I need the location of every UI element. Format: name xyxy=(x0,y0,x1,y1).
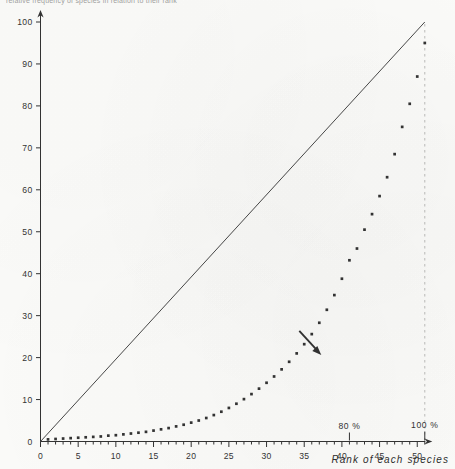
data-point xyxy=(243,398,246,401)
y-tick-label-30: 30 xyxy=(22,311,32,321)
x-tick-label-35: 35 xyxy=(299,451,309,461)
chart-plot-area: 1020304050607080901000051015202530354045… xyxy=(0,0,455,469)
data-point xyxy=(47,438,50,441)
y-tick-label-10: 10 xyxy=(22,395,32,405)
data-point xyxy=(160,428,163,431)
data-point xyxy=(92,436,95,439)
data-point xyxy=(77,436,80,439)
data-point xyxy=(137,431,140,434)
data-point xyxy=(386,176,389,179)
data-point xyxy=(182,423,185,426)
y-tick-label-0: 0 xyxy=(27,437,32,447)
figure-canvas: relative frequency of species in relatio… xyxy=(0,0,455,469)
data-point xyxy=(341,277,344,280)
y-tick-label-90: 90 xyxy=(22,59,32,69)
data-point xyxy=(295,352,298,355)
data-point xyxy=(258,387,261,390)
data-point xyxy=(250,393,253,396)
data-point-group xyxy=(47,42,426,441)
y-tick-label-70: 70 xyxy=(22,143,32,153)
data-point xyxy=(145,431,148,434)
x-axis-title: Rank of each species xyxy=(331,454,449,465)
data-point xyxy=(115,434,118,437)
data-point xyxy=(393,153,396,156)
data-point xyxy=(408,102,411,105)
data-point xyxy=(310,333,313,336)
pointer-arrow xyxy=(299,331,321,355)
data-point xyxy=(197,419,200,422)
diagonal-reference-line xyxy=(41,22,425,442)
y-tick-label-40: 40 xyxy=(22,269,32,279)
data-point xyxy=(356,247,359,250)
data-point xyxy=(99,435,102,438)
data-point xyxy=(280,368,283,371)
y-tick-label-100: 100 xyxy=(17,17,32,27)
data-point xyxy=(152,429,155,432)
data-point xyxy=(235,402,238,405)
data-point xyxy=(423,42,426,45)
data-point xyxy=(175,425,178,428)
x-tick-label-30: 30 xyxy=(261,451,271,461)
x-axis-arrowhead xyxy=(425,438,433,444)
data-point xyxy=(54,438,57,441)
data-point xyxy=(69,437,72,440)
x-tick-label-25: 25 xyxy=(224,451,234,461)
data-point xyxy=(84,436,87,439)
data-point xyxy=(401,126,404,129)
data-point xyxy=(205,417,208,420)
data-point xyxy=(130,432,133,435)
data-point xyxy=(167,427,170,430)
data-point xyxy=(190,421,193,424)
hundred-percent-marker-label: 100 % xyxy=(411,420,438,430)
data-point xyxy=(416,75,419,78)
data-point xyxy=(228,407,231,410)
data-point xyxy=(348,259,351,262)
data-point xyxy=(212,414,215,417)
data-point xyxy=(220,410,223,413)
y-tick-label-60: 60 xyxy=(22,185,32,195)
x-tick-label-20: 20 xyxy=(186,451,196,461)
data-point xyxy=(325,308,328,311)
x-tick-label-15: 15 xyxy=(148,451,158,461)
data-point xyxy=(303,343,306,346)
x-tick-label-10: 10 xyxy=(111,451,121,461)
data-point xyxy=(122,433,125,436)
y-tick-label-50: 50 xyxy=(22,227,32,237)
y-tick-label-80: 80 xyxy=(22,101,32,111)
data-point xyxy=(107,434,110,437)
x-tick-label-5: 5 xyxy=(76,451,81,461)
data-point xyxy=(318,321,321,324)
eighty-percent-marker-label: 80 % xyxy=(338,421,360,431)
data-point xyxy=(363,228,366,231)
data-point xyxy=(62,437,65,440)
data-point xyxy=(288,360,291,363)
data-point xyxy=(333,294,336,297)
data-point xyxy=(273,375,276,378)
data-point xyxy=(378,195,381,198)
data-point xyxy=(265,381,268,384)
y-tick-label-20: 20 xyxy=(22,353,32,363)
data-point xyxy=(371,213,374,216)
x-tick-label-0: 0 xyxy=(38,451,43,461)
